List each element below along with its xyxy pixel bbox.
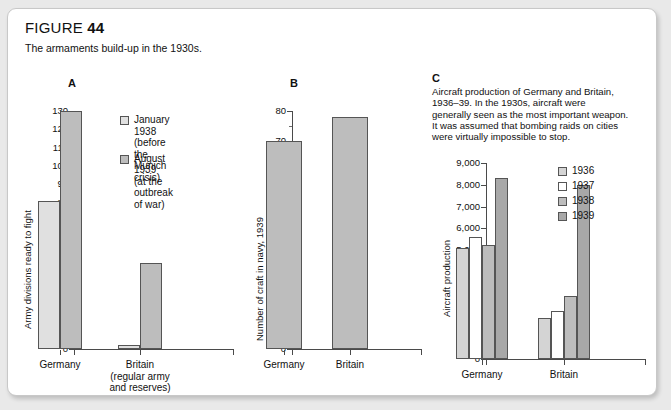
c-plot-ytick-label: 7,000 — [438, 201, 480, 212]
panel-c-legend-item-label: 1936 — [572, 165, 594, 177]
c-plot-group-tick — [564, 360, 565, 365]
a-plot-bar — [38, 201, 60, 349]
panel-b: B Number of craft in navy, 1939 01020304… — [240, 69, 430, 396]
c-plot-group-tick — [482, 360, 483, 365]
c-plot-major-tick — [481, 207, 486, 208]
c-plot-bar — [456, 248, 469, 359]
a-plot-bar — [118, 345, 140, 349]
b-plot-group-tick — [350, 350, 351, 355]
figure-number: 44 — [87, 19, 104, 36]
c-plot-bar — [482, 245, 495, 359]
c-plot-bar — [538, 318, 551, 359]
c-plot-ytick-label: 9,000 — [438, 157, 480, 168]
panel-c-legend-item-label: 1937 — [572, 180, 594, 192]
figure-title: FIGURE 44 — [25, 19, 104, 36]
b-plot-group-tick — [284, 350, 285, 355]
panel-c-legend-item-label: 1939 — [572, 210, 594, 222]
a-plot-bar — [60, 111, 82, 349]
panel-b-plot: 01020304050607080GermanyBritain — [240, 69, 430, 396]
c-plot-ytick-label: 6,000 — [438, 222, 480, 233]
b-plot-bar — [266, 141, 302, 349]
panel-c-legend-item-swatch — [558, 197, 567, 206]
b-plot-x-axis — [292, 349, 422, 350]
a-plot-x-axis — [74, 349, 234, 350]
b-plot-ytick-label: 80 — [244, 105, 286, 116]
panel-c-plot: 01,0002,0003,0004,0005,0006,0007,0008,00… — [430, 69, 657, 396]
c-plot-ytick-label: 8,000 — [438, 179, 480, 190]
panel-a-legend-item-swatch — [120, 155, 129, 164]
c-plot-major-tick — [481, 228, 486, 229]
panel-a-legend-item-label: August 1939 (at the outbreak of war) — [134, 153, 173, 211]
a-plot-x-end-tick — [233, 350, 234, 355]
a-plot-x-start-tick — [74, 350, 75, 355]
c-plot-xtick-label: Britain — [509, 369, 619, 381]
c-plot-x-start-tick — [486, 360, 487, 365]
a-plot-group-tick — [140, 350, 141, 355]
a-plot-bar — [140, 263, 162, 349]
c-plot-bar — [495, 178, 508, 359]
panel-c: C Aircraft production of Germany and Bri… — [430, 69, 657, 396]
a-plot-xtick-label: Britain (regular army and reserves) — [85, 359, 195, 394]
panel-c-legend: 1936193719381939 — [558, 165, 638, 225]
figure-label: FIGURE — [25, 19, 83, 36]
b-plot-major-tick — [287, 111, 292, 112]
c-plot-x-axis — [486, 359, 646, 360]
panel-c-legend-item-label: 1938 — [572, 195, 594, 207]
c-plot-major-tick — [481, 185, 486, 186]
panel-c-legend-item-swatch — [558, 167, 567, 176]
panel-a-legend: January 1938 (before the Munich crisis)A… — [120, 114, 230, 199]
b-plot-x-start-tick — [292, 350, 293, 355]
c-plot-bar — [564, 296, 577, 359]
figure-card: FIGURE 44 The armaments build-up in the … — [7, 8, 657, 396]
b-plot-minor-tick — [289, 126, 292, 127]
a-plot-group-tick — [60, 350, 61, 355]
c-plot-x-end-tick — [645, 360, 646, 365]
b-plot-x-end-tick — [421, 350, 422, 355]
c-plot-major-tick — [481, 163, 486, 164]
b-plot-xtick-label: Britain — [295, 359, 405, 371]
c-plot-bar — [469, 237, 482, 359]
c-plot-bar — [551, 311, 564, 359]
panel-a: A Army divisions ready to fight 01020304… — [8, 69, 240, 396]
figure-caption: The armaments build-up in the 1930s. — [25, 42, 202, 54]
panel-c-legend-item-swatch — [558, 182, 567, 191]
panel-a-legend-item-swatch — [120, 116, 129, 125]
panel-c-legend-item-swatch — [558, 212, 567, 221]
b-plot-bar — [332, 117, 368, 349]
